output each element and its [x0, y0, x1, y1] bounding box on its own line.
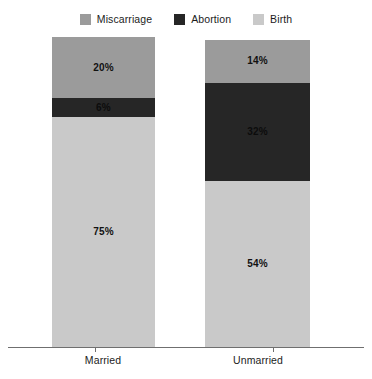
segment-married-miscarriage[interactable]: 20% [52, 37, 155, 98]
x-axis-line [8, 347, 364, 348]
plot-area: 20% 6% 75% 14% 32% 54% Married Unmarried [0, 0, 372, 379]
x-axis-tick-married [95, 347, 96, 352]
segment-label-unmarried-miscarriage: 14% [247, 56, 268, 66]
bar-unmarried[interactable]: 14% 32% 54% [205, 40, 310, 347]
segment-married-birth[interactable]: 75% [52, 117, 155, 347]
segment-unmarried-birth[interactable]: 54% [205, 181, 310, 347]
segment-unmarried-abortion[interactable]: 32% [205, 83, 310, 181]
x-axis-label-married: Married [43, 355, 163, 366]
segment-label-unmarried-abortion: 32% [247, 127, 268, 137]
segment-label-married-miscarriage: 20% [93, 63, 114, 73]
bar-married[interactable]: 20% 6% 75% [52, 37, 155, 347]
segment-unmarried-miscarriage[interactable]: 14% [205, 40, 310, 83]
segment-married-abortion[interactable]: 6% [52, 98, 155, 116]
x-axis-label-unmarried: Unmarried [198, 355, 318, 366]
segment-label-unmarried-birth: 54% [247, 259, 268, 269]
x-axis-tick-unmarried [273, 347, 274, 352]
segment-label-married-abortion: 6% [96, 103, 111, 113]
stacked-bar-chart: Miscarriage Abortion Birth 20% 6% 75% 14… [0, 0, 372, 379]
segment-label-married-birth: 75% [93, 227, 114, 237]
